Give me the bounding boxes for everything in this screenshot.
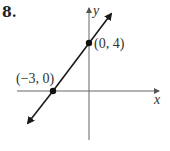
point-x-intercept (50, 88, 56, 94)
y-axis-label: y (93, 3, 99, 19)
point-y-intercept (86, 40, 92, 46)
x-axis-label: x (154, 92, 160, 108)
point-label-y-intercept: (0, 4) (94, 36, 124, 52)
graph-figure: 8. y x (0, 4) (−3, 0) (0, 0, 170, 151)
point-label-x-intercept: (−3, 0) (16, 71, 54, 87)
line-series (28, 14, 111, 123)
